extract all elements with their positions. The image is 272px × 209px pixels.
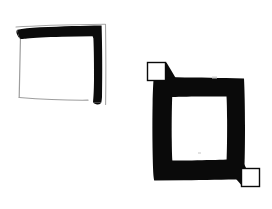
figure-canvas bbox=[0, 0, 272, 209]
ring-speckle-inner bbox=[198, 152, 201, 154]
top-left-white-square-tab bbox=[148, 63, 166, 81]
figure-illustration bbox=[0, 0, 272, 209]
bottom-right-white-square-tab bbox=[242, 169, 260, 187]
ring-speckle-top bbox=[212, 77, 217, 79]
